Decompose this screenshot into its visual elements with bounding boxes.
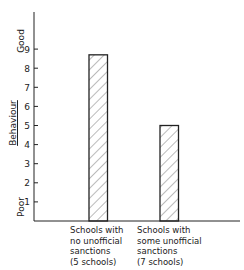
axes: 123456789 [24, 12, 240, 221]
category-label-1: Schools with no unofficial sanctions (5 … [70, 225, 123, 267]
y-axis-title: Behaviour [8, 98, 18, 148]
y-axis-bottom-label: Poor [16, 192, 26, 222]
bar-1 [89, 55, 108, 221]
bars [89, 55, 179, 221]
y-tick-label: 5 [24, 121, 30, 131]
category-label-2: Schools with some unofficial sanctions (… [137, 225, 202, 267]
y-tick-label: 2 [24, 178, 30, 188]
y-tick-label: 3 [24, 159, 30, 169]
y-tick-label: 4 [24, 140, 30, 150]
y-tick-label: 7 [24, 83, 30, 93]
y-tick-label: 6 [24, 102, 30, 112]
bar-2 [160, 126, 179, 222]
y-tick-label: 8 [24, 64, 30, 74]
y-axis-top-label: Good [16, 26, 26, 56]
